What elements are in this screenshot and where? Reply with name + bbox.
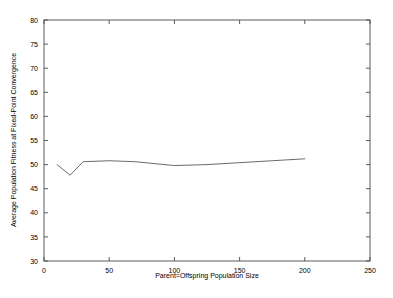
plot-border (44, 20, 370, 261)
x-axis-title: Parent=Offspring Population Size (155, 272, 259, 280)
x-tick-label: 50 (105, 267, 113, 274)
y-tick-label: 75 (30, 41, 38, 48)
x-axis: 050100150200250 (42, 20, 376, 274)
y-tick-label: 80 (30, 17, 38, 24)
y-tick-label: 40 (30, 209, 38, 216)
y-tick-label: 35 (30, 234, 38, 241)
line-chart-canvas: 3035404550556065707580 050100150200250 P… (0, 0, 393, 298)
y-tick-label: 45 (30, 185, 38, 192)
plot-frame (44, 20, 370, 261)
data-series-group (57, 159, 305, 175)
y-axis: 3035404550556065707580 (30, 17, 370, 265)
y-tick-label: 65 (30, 89, 38, 96)
x-tick-label: 200 (299, 267, 311, 274)
y-tick-label: 70 (30, 65, 38, 72)
y-axis-title: Average Population Fitness at Fixed-Poin… (10, 53, 18, 227)
y-tick-label: 55 (30, 137, 38, 144)
y-tick-label: 30 (30, 258, 38, 265)
chart-figure: 3035404550556065707580 050100150200250 P… (0, 0, 393, 298)
series-line-0 (57, 159, 305, 175)
x-tick-label: 0 (42, 267, 46, 274)
y-tick-label: 60 (30, 113, 38, 120)
x-tick-label: 250 (364, 267, 376, 274)
y-tick-label: 50 (30, 161, 38, 168)
